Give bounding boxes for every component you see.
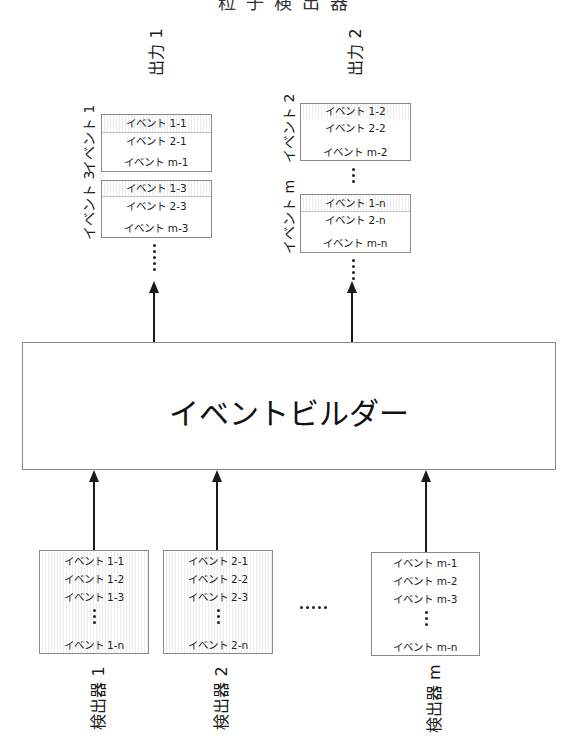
output-2-group-1-label: イベント 2 bbox=[278, 101, 296, 163]
output-2-label: 出力 2 bbox=[342, 22, 362, 82]
output-1-group-2-label: イベント 3 bbox=[78, 178, 96, 240]
output-1-event-box-2: イベント 1-3 イベント 2-3 イベント m-3 bbox=[101, 180, 212, 238]
arrow-line bbox=[351, 292, 353, 342]
detector-1-event-box: イベント 1-1 イベント 1-2 イベント 1-3 イベント 1-n bbox=[39, 550, 149, 654]
output-2-group-2-label: イベント m bbox=[278, 192, 296, 254]
event-row: イベント 1-3 bbox=[40, 589, 148, 604]
event-row: イベント 2-2 bbox=[301, 120, 410, 136]
detector-m-event-box: イベント m-1 イベント m-2 イベント m-3 イベント m-n bbox=[371, 552, 480, 656]
event-row: イベント m-3 bbox=[372, 591, 479, 606]
vertical-ellipsis-icon bbox=[352, 259, 356, 283]
event-row: イベント m-n bbox=[301, 235, 410, 251]
event-row: イベント m-2 bbox=[372, 573, 479, 588]
event-row: イベント 2-3 bbox=[102, 198, 211, 214]
event-row: イベント 2-1 bbox=[164, 553, 272, 568]
detector-2-event-box: イベント 2-1 イベント 2-2 イベント 2-3 イベント 2-n bbox=[163, 550, 273, 654]
event-row: イベント m-1 bbox=[372, 555, 479, 570]
event-row: イベント 1-3 bbox=[102, 181, 211, 196]
arrow-line bbox=[153, 292, 155, 342]
event-row: イベント 1-n bbox=[301, 195, 410, 211]
event-row: イベント m-1 bbox=[102, 154, 211, 170]
event-row: イベント m-n bbox=[372, 639, 479, 654]
arrow-line bbox=[216, 481, 218, 550]
event-row: イベント m-2 bbox=[301, 144, 410, 160]
event-row: イベント 1-2 bbox=[301, 104, 410, 119]
event-row: イベント 1-1 bbox=[102, 115, 211, 132]
event-row: イベント 2-n bbox=[164, 637, 272, 652]
event-row: イベント 2-3 bbox=[164, 589, 272, 604]
event-builder-label: イベントビルダー bbox=[23, 389, 555, 433]
event-row: イベント 1-2 bbox=[40, 571, 148, 586]
vertical-ellipsis-icon bbox=[153, 244, 157, 274]
event-row: イベント 1-1 bbox=[40, 553, 148, 568]
arrow-line bbox=[425, 481, 427, 553]
event-row: イベント 2-n bbox=[301, 212, 410, 228]
row-divider bbox=[102, 196, 211, 197]
arrow-line bbox=[93, 481, 95, 550]
output-2-event-box-1: イベント 1-2 イベント 2-2 イベント m-2 bbox=[300, 103, 411, 161]
event-row: イベント 1-n bbox=[40, 637, 148, 652]
vertical-ellipsis-icon bbox=[352, 168, 356, 186]
output-2-event-box-2: イベント 1-n イベント 2-n イベント m-n bbox=[300, 194, 411, 253]
vertical-ellipsis-icon bbox=[425, 611, 429, 629]
horizontal-ellipsis-icon bbox=[300, 606, 327, 609]
output-1-event-box-1: イベント 1-1 イベント 2-1 イベント m-1 bbox=[101, 114, 212, 172]
output-1-label: 出力 1 bbox=[143, 22, 163, 82]
detector-1-label: 検出器 1 bbox=[85, 665, 105, 731]
event-builder-box: イベントビルダー bbox=[22, 342, 556, 470]
event-row: イベント 2-2 bbox=[164, 571, 272, 586]
vertical-ellipsis-icon bbox=[217, 609, 221, 627]
detector-m-label: 検出器 m bbox=[421, 667, 441, 733]
page-title-clipped: 粒子検出器 bbox=[150, 0, 426, 14]
event-row: イベント m-3 bbox=[102, 220, 211, 236]
detector-2-label: 検出器 2 bbox=[208, 665, 228, 731]
output-1-group-1-label: イベント 1 bbox=[78, 112, 96, 174]
vertical-ellipsis-icon bbox=[93, 609, 97, 627]
event-row: イベント 2-1 bbox=[102, 133, 211, 149]
